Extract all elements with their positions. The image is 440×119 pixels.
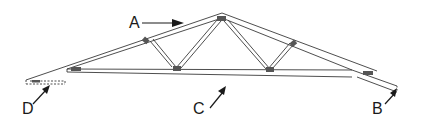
label-d: D <box>22 101 34 117</box>
bottom-chord <box>67 69 352 77</box>
arrow-d-icon <box>33 85 50 104</box>
right-top-chord <box>222 13 377 71</box>
right-overhang <box>352 70 397 92</box>
left-tail-extension <box>26 80 65 84</box>
arrow-b-icon <box>385 88 397 104</box>
arrow-c-icon <box>210 86 226 108</box>
left-top-chord <box>26 13 222 80</box>
label-b: B <box>372 101 383 117</box>
label-a: A <box>129 15 140 31</box>
web-members <box>150 20 294 69</box>
roof-truss-diagram: A B C D <box>0 0 440 119</box>
arrow-a-icon <box>142 19 184 27</box>
label-c: C <box>193 101 205 117</box>
